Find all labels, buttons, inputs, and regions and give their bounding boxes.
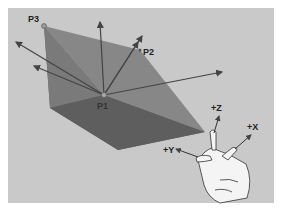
hand-icon bbox=[196, 130, 250, 203]
label-y-axis: +Y bbox=[163, 145, 174, 155]
point-p1 bbox=[102, 93, 107, 98]
point-p3 bbox=[42, 24, 47, 29]
label-p1: P1 bbox=[97, 101, 108, 111]
point-p2 bbox=[139, 49, 142, 52]
label-p2: P2 bbox=[143, 47, 154, 57]
solid-diagram bbox=[0, 0, 281, 213]
label-z-axis: +Z bbox=[211, 103, 222, 113]
label-x-axis: +X bbox=[247, 122, 258, 132]
label-p3: P3 bbox=[28, 14, 39, 24]
